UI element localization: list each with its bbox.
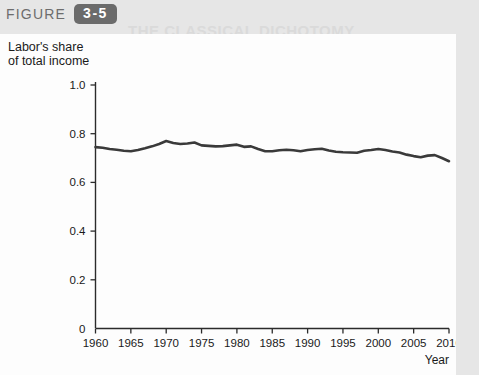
- x-axis-ticks: 1960196519701975198019851990199520002005…: [83, 329, 456, 349]
- y-tick-label: 0.4: [70, 225, 87, 237]
- line-chart: 00.20.40.60.81.0 19601965197019751980198…: [0, 34, 456, 375]
- y-tick-label: 0: [79, 323, 85, 335]
- figure-label: FIGURE: [6, 6, 66, 22]
- x-axis-title: Year: [425, 353, 449, 367]
- x-tick-label: 2000: [366, 337, 392, 349]
- figure-header: FIGURE 3-5: [6, 4, 117, 24]
- data-series-line: [96, 141, 450, 161]
- x-tick-label: 1980: [224, 337, 250, 349]
- y-tick-label: 0.6: [70, 176, 86, 188]
- figure-number-badge: 3-5: [74, 4, 117, 24]
- x-tick-label: 1990: [295, 337, 321, 349]
- y-tick-label: 1.0: [70, 79, 86, 91]
- x-tick-label: 2010: [436, 337, 456, 349]
- x-tick-label: 1965: [118, 337, 144, 349]
- x-tick-label: 1975: [189, 337, 215, 349]
- x-tick-label: 1995: [330, 337, 356, 349]
- y-tick-label: 0.2: [70, 274, 86, 286]
- x-tick-label: 1985: [259, 337, 285, 349]
- chart-panel: Labor's share of total income 00.20.40.6…: [0, 34, 456, 375]
- y-tick-label: 0.8: [70, 128, 86, 140]
- x-tick-label: 1970: [153, 337, 179, 349]
- x-tick-label: 2005: [401, 337, 427, 349]
- x-tick-label: 1960: [83, 337, 109, 349]
- y-axis-ticks: 00.20.40.60.81.0: [70, 79, 96, 335]
